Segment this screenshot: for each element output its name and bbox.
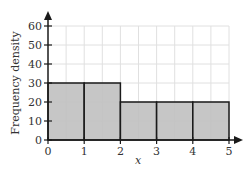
x-tick-label: 1 [81, 145, 88, 158]
y-tick-label: 10 [28, 115, 42, 128]
x-tick-label: 4 [189, 145, 196, 158]
x-tick-label: 3 [153, 145, 160, 158]
y-tick-label: 20 [28, 96, 42, 109]
y-tick-label: 40 [28, 58, 42, 71]
x-axis-arrow-icon [234, 136, 243, 144]
x-tick-label: 0 [45, 145, 52, 158]
y-tick-label: 0 [35, 134, 42, 147]
x-axis-title: x [135, 154, 142, 167]
y-tick-label: 30 [28, 77, 42, 90]
histogram-bar [84, 83, 120, 140]
histogram-bar [157, 102, 193, 140]
y-axis-title: Frequency density [9, 31, 22, 135]
histogram-bar [193, 102, 229, 140]
y-axis-arrow-icon [44, 11, 52, 20]
histogram-chart: 0102030405060012345 x Frequency density [0, 0, 247, 177]
x-tick-label: 2 [117, 145, 124, 158]
y-tick-label: 60 [28, 20, 42, 33]
y-tick-label: 50 [28, 39, 42, 52]
histogram-bar [120, 102, 156, 140]
x-tick-label: 5 [226, 145, 233, 158]
histogram-bar [48, 83, 84, 140]
